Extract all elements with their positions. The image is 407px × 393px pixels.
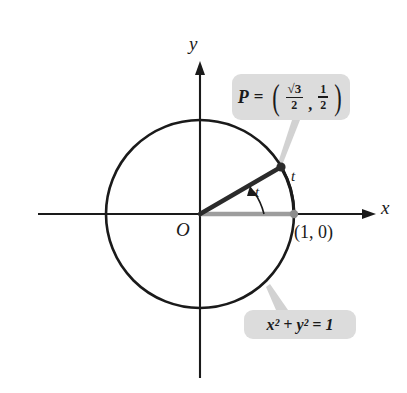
callout-point-equals: = xyxy=(254,87,264,107)
point-marker-one-zero xyxy=(290,210,298,218)
radius-segment-OP xyxy=(200,167,281,214)
callout-point-name: P xyxy=(238,87,249,108)
callout-comma: , xyxy=(308,96,312,114)
fraction-y-denominator: 2 xyxy=(318,99,328,112)
y-axis-arrowhead xyxy=(195,61,205,75)
callout-circle-equation: x² + y² = 1 xyxy=(244,310,356,339)
point-label-one-zero: (1, 0) xyxy=(294,222,333,243)
arc-label-t: t xyxy=(291,168,295,185)
fraction-x-coordinate: √3 2 xyxy=(286,82,304,112)
callout-close-bracket: ) xyxy=(334,79,341,115)
fraction-y-coordinate: 1 2 xyxy=(318,83,328,112)
leader-line-point-callout xyxy=(277,120,300,168)
fraction-x-denominator: 2 xyxy=(289,99,299,112)
x-axis-arrowhead xyxy=(362,209,376,219)
origin-label: O xyxy=(176,219,190,241)
point-marker-P xyxy=(276,162,285,171)
angle-label-t: t xyxy=(255,184,259,201)
leader-line-equation-callout xyxy=(266,284,288,310)
callout-open-bracket: ( xyxy=(272,79,279,115)
y-axis-label: y xyxy=(189,33,197,55)
x-axis-label: x xyxy=(381,197,389,219)
callout-point-coordinates: P = ( √3 2 , 1 2 ) xyxy=(232,74,350,120)
callout-equation-text: x² + y² = 1 xyxy=(267,316,334,334)
fraction-y-numerator: 1 xyxy=(318,83,328,96)
fraction-x-numerator: √3 xyxy=(286,82,304,96)
